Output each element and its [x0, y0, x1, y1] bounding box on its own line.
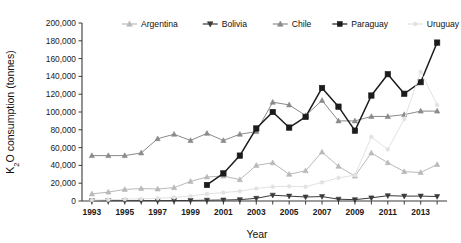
data-point-marker: [254, 126, 259, 131]
y-tick-label: 180,000: [46, 36, 77, 46]
legend-item-paraguay[interactable]: Paraguay: [332, 19, 388, 29]
data-point-marker: [204, 131, 209, 136]
data-point-marker: [385, 160, 390, 165]
y-axis: 020,00040,00060,00080,000100,000120,0001…: [46, 18, 82, 206]
legend-item-bolivia[interactable]: Bolivia: [203, 19, 248, 29]
data-point-marker: [319, 85, 324, 90]
legend-label: Chile: [292, 19, 312, 29]
series-line: [92, 72, 437, 200]
data-point-marker: [172, 196, 176, 200]
series-uruguay: [90, 70, 439, 202]
y-tick-label: 200,000: [46, 18, 77, 28]
data-point-marker: [238, 189, 242, 193]
data-point-marker: [385, 71, 390, 76]
y-tick-label: 80,000: [50, 125, 76, 135]
data-point-marker: [254, 187, 258, 191]
data-point-marker: [287, 184, 291, 188]
y-tick-label: 160,000: [46, 54, 77, 64]
legend-label: Paraguay: [351, 19, 388, 29]
data-point-marker: [106, 198, 110, 202]
y-tick-label: 60,000: [50, 143, 76, 153]
x-tick-label: 1999: [181, 207, 200, 217]
series-argentina: [89, 149, 439, 196]
data-point-marker: [352, 128, 357, 133]
data-point-marker: [139, 197, 143, 201]
data-point-marker: [337, 22, 342, 27]
data-point-marker: [413, 22, 417, 26]
data-series-group: [89, 40, 440, 204]
data-point-marker: [320, 180, 324, 184]
data-point-marker: [402, 91, 407, 96]
k2o-consumption-line-chart: ArgentinaBoliviaChileParaguayUruguay 020…: [0, 0, 461, 243]
legend-item-chile[interactable]: Chile: [273, 19, 312, 29]
data-point-marker: [189, 194, 193, 198]
x-tick-label: 2009: [346, 207, 365, 217]
legend-label: Argentina: [141, 19, 178, 29]
legend-item-uruguay[interactable]: Uruguay: [408, 19, 460, 29]
data-point-marker: [319, 98, 324, 103]
series-line: [207, 43, 437, 185]
data-point-marker: [418, 79, 423, 84]
y-tick-label: 100,000: [46, 107, 77, 117]
x-tick-label: 2001: [214, 207, 233, 217]
data-point-marker: [271, 185, 275, 189]
data-point-marker: [304, 185, 308, 189]
x-tick-label: 1997: [148, 207, 167, 217]
data-point-marker: [270, 99, 275, 104]
legend-label: Uruguay: [427, 19, 460, 29]
data-point-marker: [419, 70, 423, 74]
y-axis-title: K2O consumption (tonnes): [4, 50, 21, 173]
data-point-marker: [204, 182, 209, 187]
chart-canvas: ArgentinaBoliviaChileParaguayUruguay 020…: [0, 0, 461, 243]
data-point-marker: [369, 93, 374, 98]
data-point-marker: [123, 197, 127, 201]
x-axis: 1993199519971999200120032005200720092011…: [82, 201, 447, 217]
data-point-marker: [435, 103, 439, 107]
x-tick-label: 1993: [83, 207, 102, 217]
legend-label: Bolivia: [222, 19, 248, 29]
chart-legend: ArgentinaBoliviaChileParaguayUruguay: [122, 19, 460, 29]
x-tick-label: 2011: [379, 207, 398, 217]
data-point-marker: [386, 148, 390, 152]
data-point-marker: [171, 131, 176, 136]
y-tick-label: 20,000: [50, 178, 76, 188]
x-tick-label: 2005: [280, 207, 299, 217]
data-point-marker: [336, 104, 341, 109]
y-tick-label: 120,000: [46, 89, 77, 99]
legend-item-argentina[interactable]: Argentina: [122, 19, 178, 29]
data-point-marker: [270, 160, 275, 165]
x-tick-label: 2007: [313, 207, 332, 217]
data-point-marker: [286, 125, 291, 130]
data-point-marker: [222, 191, 226, 195]
data-point-marker: [353, 173, 357, 177]
x-tick-label: 1995: [115, 207, 134, 217]
y-tick-label: 0: [71, 196, 76, 206]
data-point-marker: [319, 149, 324, 154]
x-tick-label: 2013: [411, 207, 430, 217]
data-point-marker: [303, 114, 308, 119]
series-line: [92, 195, 437, 201]
data-point-marker: [237, 153, 242, 158]
data-point-marker: [205, 192, 209, 196]
x-tick-label: 2003: [247, 207, 266, 217]
data-point-marker: [369, 150, 374, 155]
x-axis-title: Year: [246, 228, 268, 240]
data-point-marker: [270, 109, 275, 114]
y-tick-label: 40,000: [50, 160, 76, 170]
data-point-marker: [156, 196, 160, 200]
y-tick-label: 140,000: [46, 71, 77, 81]
data-point-marker: [369, 135, 373, 139]
data-point-marker: [435, 162, 440, 167]
data-point-marker: [90, 198, 94, 202]
data-point-marker: [337, 176, 341, 180]
data-point-marker: [221, 171, 226, 176]
data-point-marker: [402, 117, 406, 121]
data-point-marker: [434, 40, 439, 45]
